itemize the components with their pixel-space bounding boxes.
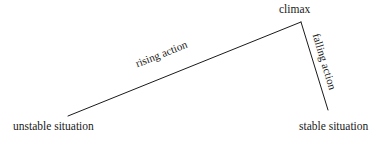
rising-action-line bbox=[68, 22, 301, 116]
label-stable-situation: stable situation bbox=[299, 121, 368, 133]
label-climax: climax bbox=[279, 4, 310, 16]
freytag-pyramid-diagram: unstable situation rising action climax … bbox=[0, 0, 389, 141]
label-unstable-situation: unstable situation bbox=[13, 121, 94, 133]
